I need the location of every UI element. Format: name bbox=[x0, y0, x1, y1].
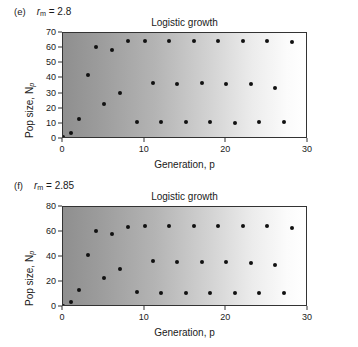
y-axis-tick-label: 80 bbox=[34, 201, 56, 211]
y-axis-tick-label: 10 bbox=[34, 118, 56, 128]
data-point bbox=[265, 39, 269, 43]
data-point bbox=[290, 226, 294, 230]
data-point bbox=[102, 276, 106, 280]
data-point bbox=[110, 232, 114, 236]
data-point bbox=[184, 291, 188, 295]
y-axis-tick-label: 70 bbox=[34, 27, 56, 37]
x-axis-tick-mark bbox=[307, 138, 308, 142]
data-point bbox=[200, 81, 204, 85]
data-point bbox=[151, 259, 155, 263]
data-point bbox=[94, 45, 98, 49]
data-point bbox=[233, 121, 237, 125]
data-point bbox=[273, 86, 277, 90]
data-point bbox=[290, 40, 294, 44]
data-point bbox=[110, 48, 114, 52]
y-axis-tick-mark bbox=[58, 231, 62, 232]
x-axis-tick-label: 10 bbox=[139, 312, 149, 322]
data-point bbox=[143, 224, 147, 228]
x-axis-tick-label: 0 bbox=[59, 312, 64, 322]
x-axis-tick-mark bbox=[143, 138, 144, 142]
data-point bbox=[208, 120, 212, 124]
data-point bbox=[224, 82, 228, 86]
x-axis-tick-mark bbox=[307, 306, 308, 310]
data-point bbox=[224, 260, 228, 264]
data-point bbox=[273, 263, 277, 267]
data-point bbox=[265, 224, 269, 228]
x-axis-tick-label: 0 bbox=[59, 144, 64, 154]
data-point bbox=[143, 39, 147, 43]
data-point bbox=[216, 39, 220, 43]
data-point bbox=[208, 291, 212, 295]
panel-e: (e)rm = 2.8 Logistic growth Pop size, Np… bbox=[0, 0, 358, 173]
x-axis-tick-label: 20 bbox=[220, 312, 230, 322]
data-point bbox=[233, 291, 237, 295]
data-point bbox=[86, 73, 90, 77]
panel-e-letter: (e) bbox=[14, 6, 26, 17]
data-point bbox=[86, 253, 90, 257]
x-axis-tick-mark bbox=[225, 306, 226, 310]
data-point bbox=[249, 82, 253, 86]
data-point bbox=[69, 131, 73, 135]
data-point bbox=[77, 288, 81, 292]
y-axis-tick-label: 50 bbox=[34, 57, 56, 67]
data-point bbox=[241, 224, 245, 228]
y-axis-tick-mark bbox=[58, 32, 62, 33]
data-point bbox=[241, 39, 245, 43]
panel-e-chart-title: Logistic growth bbox=[62, 17, 307, 28]
y-axis-tick-mark bbox=[58, 47, 62, 48]
x-axis-tick-label: 30 bbox=[302, 144, 312, 154]
data-point bbox=[167, 39, 171, 43]
y-axis-tick-mark bbox=[58, 92, 62, 93]
y-axis-tick-label: 0 bbox=[34, 301, 56, 311]
x-axis-tick-mark bbox=[62, 138, 63, 142]
y-axis-tick-mark bbox=[58, 206, 62, 207]
x-axis-tick-mark bbox=[62, 306, 63, 310]
data-point bbox=[257, 291, 261, 295]
data-point bbox=[126, 39, 130, 43]
data-point bbox=[102, 102, 106, 106]
data-point bbox=[159, 120, 163, 124]
x-axis-tick-label: 20 bbox=[220, 144, 230, 154]
data-point bbox=[257, 120, 261, 124]
data-point bbox=[126, 225, 130, 229]
data-point bbox=[167, 224, 171, 228]
y-axis-tick-label: 30 bbox=[34, 88, 56, 98]
y-axis-tick-mark bbox=[58, 77, 62, 78]
data-point bbox=[249, 261, 253, 265]
data-point bbox=[135, 120, 139, 124]
panel-f-x-axis-label: Generation, p bbox=[62, 327, 307, 338]
y-axis-tick-label: 60 bbox=[34, 42, 56, 52]
y-axis-tick-mark bbox=[58, 62, 62, 63]
y-axis-tick-label: 40 bbox=[34, 72, 56, 82]
panel-f-letter: (f) bbox=[14, 180, 23, 191]
panel-e-plot-area bbox=[62, 32, 307, 138]
y-axis-tick-label: 20 bbox=[34, 103, 56, 113]
panel-f: (f)rm = 2.85 Logistic growth Pop size, N… bbox=[0, 174, 358, 347]
panel-f-plot-area bbox=[62, 206, 307, 306]
x-axis-tick-mark bbox=[143, 306, 144, 310]
y-axis-tick-label: 40 bbox=[34, 251, 56, 261]
data-point bbox=[184, 120, 188, 124]
data-point bbox=[118, 267, 122, 271]
data-point bbox=[282, 120, 286, 124]
data-point bbox=[282, 291, 286, 295]
panel-f-parameter: rm = 2.85 bbox=[34, 180, 74, 191]
data-point bbox=[69, 300, 73, 304]
y-axis-tick-mark bbox=[58, 107, 62, 108]
data-point bbox=[192, 224, 196, 228]
data-point bbox=[118, 91, 122, 95]
data-point bbox=[200, 260, 204, 264]
x-axis-tick-mark bbox=[225, 138, 226, 142]
panel-e-parameter: rm = 2.8 bbox=[37, 6, 72, 17]
x-axis-tick-label: 30 bbox=[302, 312, 312, 322]
panel-f-chart-title: Logistic growth bbox=[62, 191, 307, 202]
data-point bbox=[77, 117, 81, 121]
data-point bbox=[135, 290, 139, 294]
data-point bbox=[192, 39, 196, 43]
data-point bbox=[175, 82, 179, 86]
y-axis-tick-label: 0 bbox=[34, 133, 56, 143]
x-axis-tick-label: 10 bbox=[139, 144, 149, 154]
y-axis-tick-mark bbox=[58, 281, 62, 282]
y-axis-tick-mark bbox=[58, 256, 62, 257]
data-point bbox=[175, 260, 179, 264]
